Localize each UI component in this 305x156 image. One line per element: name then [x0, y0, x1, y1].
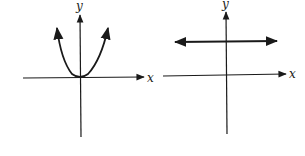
y-axis — [80, 15, 81, 137]
x-axis-label: x — [289, 67, 296, 81]
parabola-graph: x y — [23, 0, 154, 137]
horizontal-line — [175, 41, 277, 42]
x-axis — [163, 74, 286, 76]
y-axis-label: y — [75, 0, 83, 13]
parabola-curve — [57, 28, 108, 77]
x-axis-label: x — [147, 71, 154, 85]
y-axis-label: y — [221, 0, 229, 11]
horizontal-line-graph: x y — [163, 0, 296, 134]
diagram-canvas: x y x y — [0, 0, 305, 156]
y-axis — [226, 12, 227, 134]
